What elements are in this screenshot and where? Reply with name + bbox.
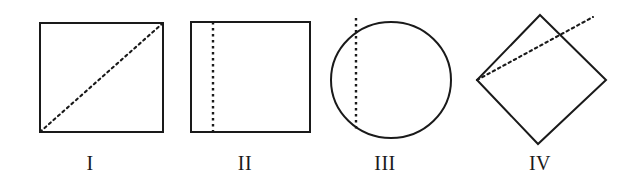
figure-1-dashed-diagonal — [40, 23, 163, 132]
figure-3-label: III — [374, 153, 395, 173]
figure-4-label: IV — [529, 153, 551, 173]
figure-3-circle — [331, 22, 451, 138]
figure-2-group — [191, 22, 310, 132]
figure-4-diamond — [477, 15, 606, 144]
figure-3-group — [331, 18, 451, 138]
figure-board: I II III IV — [0, 0, 634, 187]
figure-1-label: I — [86, 153, 93, 173]
figure-2-label: II — [238, 153, 252, 173]
figure-4-dashed-ray — [477, 17, 593, 80]
figure-1-group — [40, 23, 163, 132]
figure-4-group — [477, 15, 606, 144]
figure-2-square — [191, 22, 310, 132]
